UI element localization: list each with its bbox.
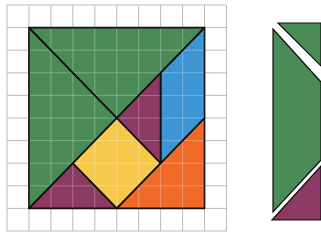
partial-tangram-figure-right [272,23,321,220]
tangram-figure [0,0,321,233]
